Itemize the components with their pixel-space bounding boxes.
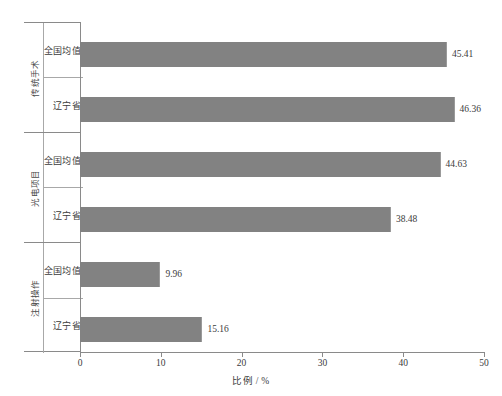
- bar: [80, 152, 441, 177]
- group-label-cell: 光电项目: [24, 133, 44, 242]
- category-axis: 传统手术 全国均值 辽宁省 光电项目 全国均值 辽宁省 注射操作 全国均值 辽宁…: [24, 22, 81, 352]
- bar-value-label: 9.96: [165, 262, 182, 287]
- x-axis-tick-label: 10: [156, 358, 166, 368]
- bar-value-label: 15.16: [207, 317, 228, 342]
- bar: [80, 207, 391, 232]
- group-label-text: 光电项目: [28, 169, 40, 207]
- x-axis-tick-label: 20: [237, 358, 247, 368]
- bar: [80, 262, 160, 287]
- x-axis-tick: [80, 352, 81, 357]
- category-label: 全国均值: [44, 243, 83, 299]
- category-label: 全国均值: [44, 133, 83, 188]
- category-label: 辽宁省: [44, 299, 83, 354]
- bar: [80, 42, 447, 67]
- x-axis-tick: [161, 352, 162, 357]
- x-axis-tick-label: 30: [318, 358, 328, 368]
- x-axis-tick-label: 0: [78, 358, 83, 368]
- category-label: 辽宁省: [44, 78, 83, 132]
- group-label-text: 传统手术: [28, 59, 40, 97]
- bar-value-label: 38.48: [396, 207, 417, 232]
- x-axis-tick: [484, 352, 485, 357]
- group-label-text: 注射操作: [28, 279, 40, 317]
- bar-chart: 传统手术 全国均值 辽宁省 光电项目 全国均值 辽宁省 注射操作 全国均值 辽宁…: [0, 0, 502, 396]
- axis-group-photoelectric: 光电项目 全国均值 辽宁省: [24, 133, 81, 243]
- group-label-cell: 传统手术: [24, 23, 44, 132]
- category-label: 全国均值: [44, 23, 83, 78]
- plot-area: 45.41 46.36 44.63 38.48 9.96 15.16: [80, 22, 484, 352]
- x-axis-tick: [322, 352, 323, 357]
- x-axis-tick: [403, 352, 404, 357]
- bar-value-label: 44.63: [446, 152, 467, 177]
- x-axis-tick-label: 50: [479, 358, 489, 368]
- row-label-column: 全国均值 辽宁省: [44, 243, 83, 353]
- x-axis-title: 比例 / %: [0, 373, 502, 387]
- x-axis-line: [80, 352, 484, 353]
- axis-group-traditional-surgery: 传统手术 全国均值 辽宁省: [24, 23, 81, 133]
- category-label: 辽宁省: [44, 188, 83, 242]
- bar-value-label: 46.36: [460, 97, 481, 122]
- axis-group-injection: 注射操作 全国均值 辽宁省: [24, 243, 81, 353]
- bar-value-label: 45.41: [452, 42, 473, 67]
- x-axis-tick-label: 40: [398, 358, 408, 368]
- bar: [80, 317, 202, 342]
- group-label-cell: 注射操作: [24, 243, 44, 353]
- x-axis-title-text: 比例 / %: [232, 373, 269, 387]
- bar: [80, 97, 455, 122]
- x-axis-tick: [242, 352, 243, 357]
- row-label-column: 全国均值 辽宁省: [44, 23, 83, 132]
- row-label-column: 全国均值 辽宁省: [44, 133, 83, 242]
